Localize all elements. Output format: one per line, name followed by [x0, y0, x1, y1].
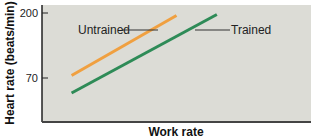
y-tick-label-200: 200 [20, 7, 38, 19]
chart: 20070 UntrainedTrained Heart rate (beats… [0, 0, 311, 138]
annotation-trained: Trained [231, 23, 271, 37]
annotation-untrained: Untrained [78, 23, 130, 37]
y-axis-title: Heart rate (beats/min) [3, 1, 17, 124]
y-tick-label-70: 70 [26, 72, 38, 84]
x-axis-title: Work rate [148, 125, 203, 138]
